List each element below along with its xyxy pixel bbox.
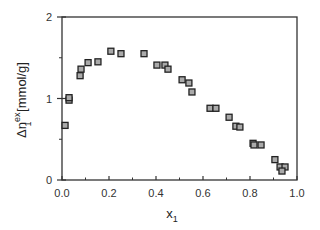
scatter-chart: 0.00.20.40.60.81.0 012 x1 Δnex1 [mmol/g] (0, 0, 320, 230)
x-tick-label: 0.2 (101, 187, 116, 199)
data-point (279, 168, 285, 174)
y-tick-label: 2 (46, 11, 52, 23)
data-point (258, 142, 264, 148)
data-point (85, 60, 91, 66)
data-point (62, 122, 68, 128)
data-point (189, 89, 195, 95)
data-point (179, 77, 185, 83)
data-point (213, 105, 219, 111)
data-point (207, 105, 213, 111)
data-point (272, 157, 278, 163)
x-axis-label: x1 (166, 206, 178, 224)
data-point (78, 66, 84, 72)
data-point (118, 51, 124, 57)
x-tick-label: 1.0 (289, 187, 304, 199)
data-point (154, 62, 160, 68)
y-tick-label: 0 (46, 174, 52, 186)
x-tick-label: 0.6 (195, 187, 210, 199)
x-tick-label: 0.0 (54, 187, 69, 199)
data-point (95, 59, 101, 65)
data-point (237, 124, 243, 130)
y-axis-label: Δnex1 [mmol/g] (12, 62, 33, 138)
data-points (62, 48, 288, 174)
y-tick-label: 1 (46, 93, 52, 105)
x-tick-label: 0.4 (148, 187, 163, 199)
data-point (251, 142, 257, 148)
data-point (108, 48, 114, 54)
data-point (66, 95, 72, 101)
x-tick-label: 0.8 (242, 187, 257, 199)
data-point (165, 66, 171, 72)
data-point (186, 80, 192, 86)
data-point (77, 73, 83, 79)
data-point (141, 51, 147, 57)
data-point (226, 114, 232, 120)
plot-frame (62, 17, 297, 180)
y-axis: 012 (46, 11, 66, 186)
